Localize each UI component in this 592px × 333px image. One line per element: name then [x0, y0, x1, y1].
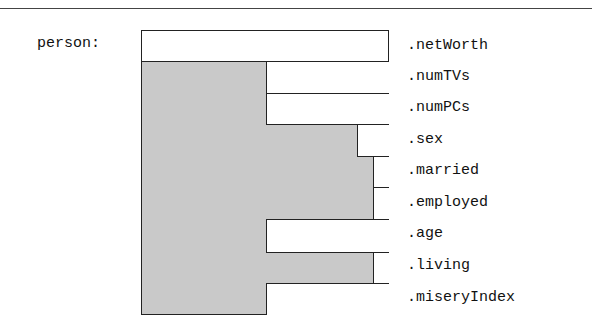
field-label-employed: .employed — [407, 194, 488, 212]
top-divider — [0, 8, 592, 9]
field-label-age: .age — [407, 225, 443, 243]
field-segment-living — [373, 252, 389, 284]
field-segment-sex — [357, 124, 389, 157]
field-label-netWorth: .netWorth — [407, 37, 488, 55]
field-label-married: .married — [407, 162, 479, 180]
field-segment-employed — [373, 187, 389, 220]
field-segment-numTVs — [266, 61, 389, 94]
field-segment-netWorth — [141, 30, 389, 62]
field-segment-age — [266, 219, 389, 253]
field-segment-numPCs — [266, 93, 389, 125]
field-label-living: .living — [407, 257, 470, 275]
field-label-miseryIndex: .miseryIndex — [407, 289, 515, 307]
field-label-numTVs: .numTVs — [407, 68, 470, 86]
variable-label: person: — [37, 35, 100, 53]
record-box — [141, 30, 389, 315]
field-label-sex: .sex — [407, 131, 443, 149]
field-segment-married — [373, 156, 389, 188]
field-label-numPCs: .numPCs — [407, 99, 470, 117]
field-segment-miseryIndex — [266, 283, 389, 315]
